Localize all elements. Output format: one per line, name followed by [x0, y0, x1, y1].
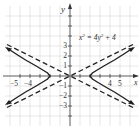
svg-text:−3: −3: [59, 101, 67, 110]
svg-text:−5: −5: [10, 79, 18, 88]
hyperbola-graph: y x x2 = 4y2 + 4 −5 −4 4 5 3 2 1 −1 −2 −…: [0, 0, 140, 126]
svg-text:4: 4: [108, 79, 112, 88]
x-axis-label: x: [133, 78, 138, 87]
equation-label: x2 = 4y2 + 4: [78, 33, 116, 42]
y-axis-label: y: [60, 4, 65, 14]
svg-text:−2: −2: [59, 91, 67, 100]
y-axis-arrow-icon: [68, 3, 72, 9]
svg-text:1: 1: [63, 61, 67, 70]
svg-text:−4: −4: [24, 79, 32, 88]
svg-text:5: 5: [118, 79, 122, 88]
svg-text:2: 2: [63, 51, 67, 60]
svg-text:−1: −1: [59, 81, 67, 90]
svg-text:3: 3: [63, 41, 67, 50]
